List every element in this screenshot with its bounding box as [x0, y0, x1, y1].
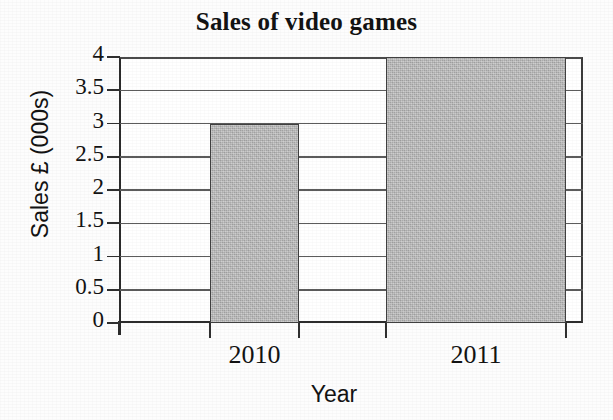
y-axis-tick	[107, 156, 120, 158]
y-axis-tick	[107, 89, 120, 91]
x-axis-tick	[209, 323, 211, 338]
y-axis-title: Sales £ (000s)	[27, 44, 54, 284]
y-axis-title-wrapper: Sales £ (000s)	[27, 44, 61, 284]
x-axis-label-2011: 2011	[416, 340, 536, 370]
x-axis-tick	[565, 323, 567, 338]
y-axis-tick	[107, 322, 120, 324]
y-axis-tick	[107, 56, 120, 58]
x-axis-tick	[298, 323, 300, 338]
bar-2011	[386, 57, 566, 323]
y-axis-tick-label: 0	[40, 307, 104, 333]
x-axis-label-2010: 2010	[195, 340, 315, 370]
y-axis-tick	[107, 289, 120, 291]
y-axis-tick	[107, 189, 120, 191]
x-axis-tick	[385, 323, 387, 338]
y-axis-tick	[107, 123, 120, 125]
chart-title: Sales of video games	[0, 8, 613, 36]
x-axis-title: Year	[119, 381, 549, 408]
y-axis-tick	[107, 222, 120, 224]
bar-2010	[210, 124, 299, 324]
y-axis-tick	[107, 256, 120, 258]
bar-chart-figure: Sales of video games 00.511.522.533.54 2…	[0, 0, 613, 420]
